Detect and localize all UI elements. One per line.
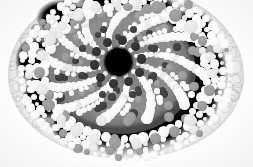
micrograph-canvas: Grayscale transverse section of a monoco… — [0, 0, 253, 167]
vignette — [0, 0, 253, 167]
